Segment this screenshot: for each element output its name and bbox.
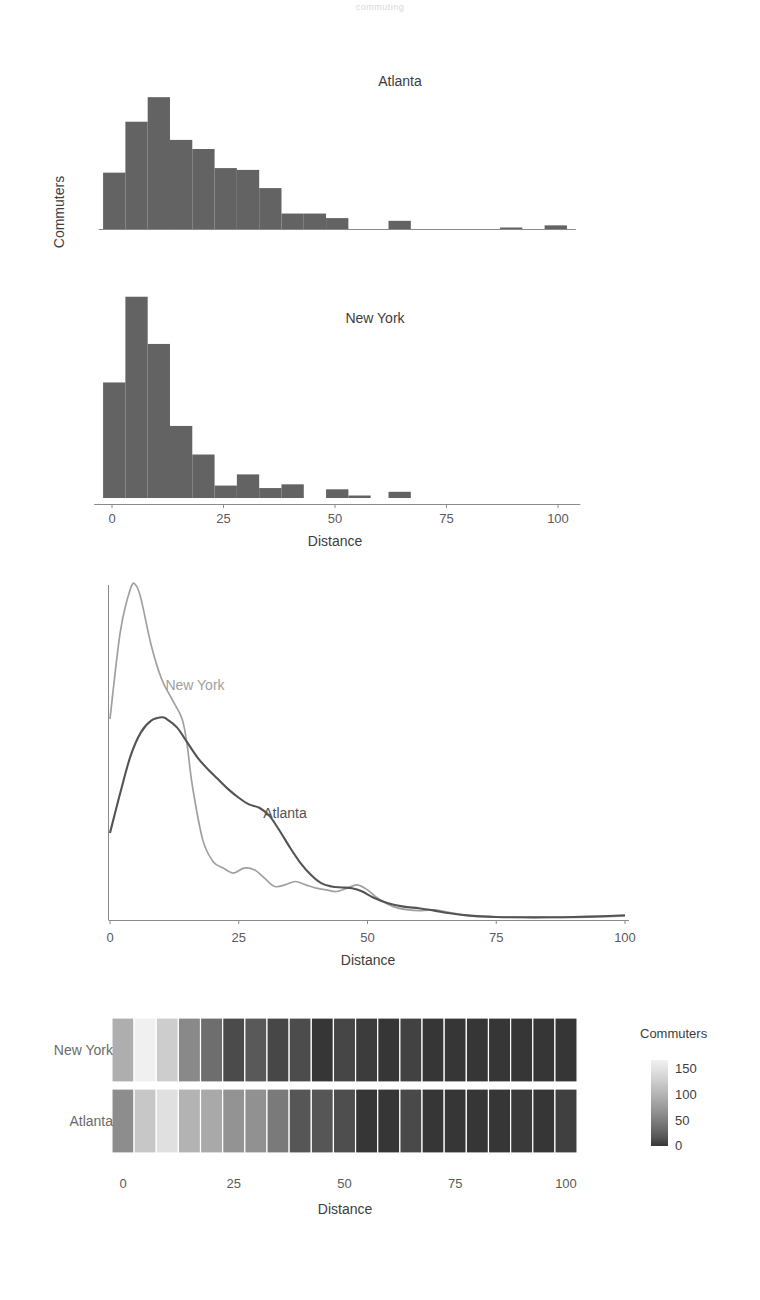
histogram-bar (259, 488, 281, 498)
heatmap-cell (378, 1089, 400, 1153)
density-panel: 0255075100DistanceNew YorkAtlanta (0, 565, 760, 985)
heatmap-cell (267, 1089, 289, 1153)
text: Atlanta (378, 73, 422, 89)
heatmap-cell (156, 1018, 178, 1082)
histogram-bar (103, 382, 125, 498)
histogram-bar (389, 492, 411, 498)
text: 50 (675, 1113, 689, 1128)
colorbar (651, 1060, 668, 1146)
heatmap-cell (444, 1089, 466, 1153)
heatmap-cell (112, 1089, 134, 1153)
histogram-bar (215, 486, 237, 498)
heatmap-cell (178, 1018, 200, 1082)
density-curve-newyork (110, 583, 625, 917)
histogram-bar (326, 218, 348, 229)
heatmap-cell (223, 1089, 245, 1153)
heatmap-cell (422, 1089, 444, 1153)
heatmap-cell (466, 1018, 488, 1082)
heatmap-cell (356, 1018, 378, 1082)
heatmap-cell (533, 1089, 555, 1153)
page-title: commuting (0, 2, 760, 12)
heatmap-cell (134, 1018, 156, 1082)
facet-atlanta: Atlanta (99, 73, 576, 230)
facet-newyork: New York (103, 297, 411, 498)
density-svg: 0255075100DistanceNew YorkAtlanta (0, 565, 760, 985)
heatmap-cell (356, 1089, 378, 1153)
heatmap-cell (289, 1018, 311, 1082)
heatmap-cell (201, 1089, 223, 1153)
heatmap-cell (289, 1089, 311, 1153)
x-axis: 0255075100Distance (94, 505, 580, 550)
histogram-bar (281, 484, 303, 498)
heatmap-row: New York (54, 1018, 577, 1082)
histogram-bar (192, 455, 214, 498)
text: 100 (555, 1176, 577, 1191)
text: Distance (318, 1201, 373, 1217)
histogram-bar (170, 426, 192, 498)
histogram-bar (192, 149, 214, 229)
heatmap-cell (533, 1018, 555, 1082)
histogram-bar (148, 344, 170, 498)
heatmap-cell (333, 1089, 355, 1153)
heatmap-cell (178, 1089, 200, 1153)
histogram-bar (148, 97, 170, 229)
heatmap-cell (400, 1018, 422, 1082)
heatmap-cell (511, 1089, 533, 1153)
text: 0 (106, 930, 113, 945)
histogram-panel: AtlantaNew York0255075100DistanceCommute… (0, 40, 760, 550)
text: 100 (547, 511, 569, 526)
heatmap-cell (333, 1018, 355, 1082)
histogram-bar (237, 474, 259, 498)
curve-label-newyork: New York (165, 677, 225, 693)
histogram-bar (389, 221, 411, 229)
text: 25 (232, 930, 246, 945)
histogram-bar (103, 173, 125, 229)
heatmap-cell (444, 1018, 466, 1082)
text: 0 (108, 511, 115, 526)
text: 25 (216, 511, 230, 526)
heatmap-cell (511, 1018, 533, 1082)
text: Commuters (51, 176, 67, 248)
heatmap-cell (555, 1018, 577, 1082)
heatmap-cell (134, 1089, 156, 1153)
histogram-bar (215, 168, 237, 229)
heatmap-cell (400, 1089, 422, 1153)
text: New York (345, 310, 405, 326)
heatmap-panel: New YorkAtlanta0255075100DistanceCommute… (0, 1000, 760, 1260)
histogram-bar (125, 122, 147, 229)
heatmap-cell (422, 1018, 444, 1082)
legend: Commuters150100500 (640, 1026, 708, 1153)
heatmap-cell (488, 1089, 510, 1153)
heatmap-cell (245, 1089, 267, 1153)
histogram-bar (304, 214, 326, 229)
heatmap-cell (311, 1018, 333, 1082)
text: Atlanta (69, 1113, 113, 1129)
text: 75 (448, 1176, 462, 1191)
text: 75 (489, 930, 503, 945)
heatmap-cell (112, 1018, 134, 1082)
histogram-bar (237, 170, 259, 229)
heatmap-cell (555, 1089, 577, 1153)
text: 0 (675, 1138, 682, 1153)
text: New York (54, 1042, 114, 1058)
text: 50 (337, 1176, 351, 1191)
histogram-bar (545, 225, 567, 229)
histogram-bar (348, 496, 370, 498)
heatmap-cell (267, 1018, 289, 1082)
histogram-bar (326, 489, 348, 498)
histogram-bar (500, 228, 522, 230)
heatmap-svg: New YorkAtlanta0255075100DistanceCommute… (0, 1000, 760, 1260)
heatmap-cell (245, 1018, 267, 1082)
heatmap-cell (378, 1018, 400, 1082)
histogram-bar (170, 140, 192, 229)
text: Commuters (640, 1026, 708, 1041)
heatmap-cell (223, 1018, 245, 1082)
heatmap-cell (488, 1018, 510, 1082)
histogram-bar (259, 188, 281, 229)
histogram-svg: AtlantaNew York0255075100DistanceCommute… (0, 40, 760, 550)
text: 50 (360, 930, 374, 945)
text: Distance (308, 533, 363, 549)
text: 100 (614, 930, 636, 945)
density-axes: 0255075100Distance (106, 585, 635, 968)
text: 50 (328, 511, 342, 526)
